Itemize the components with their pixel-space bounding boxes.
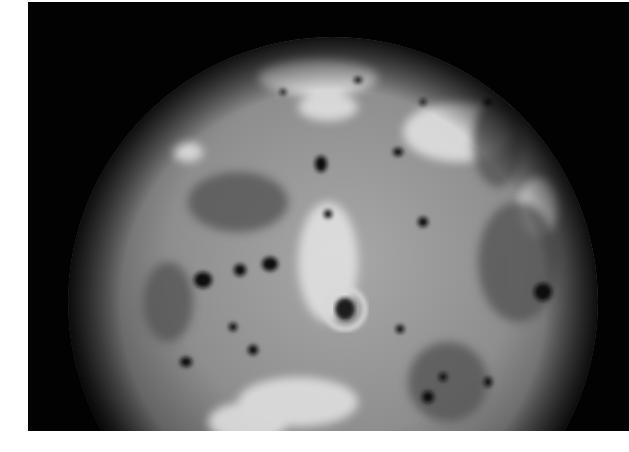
planet-photograph bbox=[28, 2, 629, 431]
io-moon-image bbox=[28, 2, 629, 431]
